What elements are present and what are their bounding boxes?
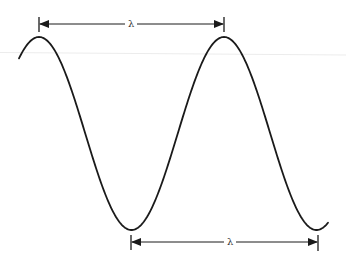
diagram-canvas	[0, 0, 346, 266]
wavelength-label-top: λ	[125, 19, 137, 29]
sine-wave-curve	[19, 37, 328, 230]
wavelength-diagram: λ λ	[0, 0, 346, 266]
wavelength-label-bottom: λ	[224, 237, 236, 247]
